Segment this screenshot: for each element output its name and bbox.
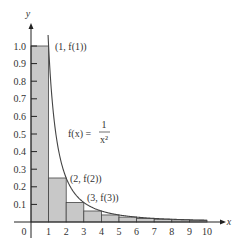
x-axis-ticks: 012345678910	[22, 226, 213, 237]
rectangle-4	[84, 211, 102, 222]
riemann-rectangles	[31, 46, 207, 222]
x-tick-label: 2	[64, 226, 69, 237]
y-tick-label: 0.7	[14, 93, 27, 104]
function-numerator: 1	[102, 119, 107, 130]
function-label: f(x) =	[68, 128, 91, 140]
point-label-3: (3, f(3))	[87, 192, 119, 204]
y-tick-label: 0.1	[14, 199, 27, 210]
point-label-2: (2, f(2))	[70, 173, 102, 185]
point-label-1: (1, f(1))	[55, 41, 87, 53]
rectangle-7	[137, 218, 155, 222]
y-tick-label: 0.4	[14, 146, 27, 157]
x-tick-label: 4	[99, 226, 104, 237]
x-tick-label: 6	[134, 226, 139, 237]
function-formula: f(x) = 1 x²	[68, 119, 110, 145]
y-tick-label: 0.8	[14, 76, 27, 87]
function-denominator: x²	[100, 134, 108, 145]
rectangle-6	[119, 217, 137, 222]
x-axis-arrow-icon	[220, 220, 226, 225]
y-tick-label: 0.3	[14, 164, 27, 175]
y-tick-label: 1.0	[14, 41, 27, 52]
y-axis-label: y	[25, 8, 31, 19]
chart: 0.10.20.30.40.50.60.70.80.91.0 012345678…	[0, 0, 239, 243]
y-tick-label: 0.9	[14, 58, 27, 69]
x-axis-label: x	[226, 216, 232, 227]
x-tick-label: 3	[81, 226, 86, 237]
y-tick-label: 0.6	[14, 111, 27, 122]
rectangle-5	[101, 215, 119, 222]
y-axis-arrow-icon	[29, 23, 34, 29]
rectangle-3	[66, 202, 84, 222]
x-tick-label: 0	[22, 226, 27, 237]
x-tick-label: 9	[187, 226, 192, 237]
y-tick-label: 0.5	[14, 129, 27, 140]
x-tick-label: 8	[169, 226, 174, 237]
rectangle-2	[49, 178, 67, 222]
x-tick-label: 7	[152, 226, 157, 237]
x-tick-label: 10	[202, 226, 212, 237]
x-tick-label: 5	[117, 226, 122, 237]
y-tick-label: 0.2	[14, 181, 27, 192]
x-tick-label: 1	[46, 226, 51, 237]
